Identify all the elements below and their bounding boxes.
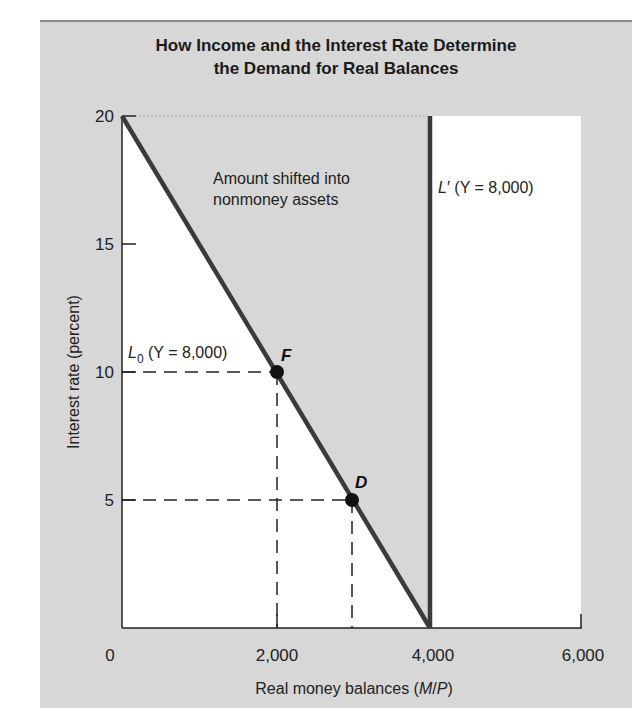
x-axis-title: Real money balances (M/P) bbox=[255, 680, 452, 697]
y-axis-title: Interest rate (percent) bbox=[65, 295, 82, 449]
x-tick-label-2000: 2,000 bbox=[256, 646, 299, 665]
y-tick-label-15: 15 bbox=[95, 235, 114, 254]
x-tick-label-4000: 4,000 bbox=[412, 646, 455, 665]
y-tick-label-20: 20 bbox=[95, 107, 114, 126]
x-tick-label-0: 0 bbox=[105, 646, 114, 665]
plot-area: 20 15 10 5 0 2,000 4,000 6,000 Real mone… bbox=[0, 0, 632, 728]
point-f-marker bbox=[270, 365, 284, 379]
shaded-region-label-line-2: nonmoney assets bbox=[213, 191, 338, 208]
point-d-label: D bbox=[355, 473, 367, 492]
y-tick-label-5: 5 bbox=[105, 491, 114, 510]
shaded-region-label-line-1: Amount shifted into bbox=[213, 170, 350, 187]
point-d-marker bbox=[345, 493, 359, 507]
point-f-label: F bbox=[281, 346, 292, 365]
y-tick-label-10: 10 bbox=[95, 363, 114, 382]
l-prime-series-label: L′ (Y = 8,000) bbox=[438, 179, 534, 196]
x-tick-label-6000: 6,000 bbox=[562, 646, 605, 665]
